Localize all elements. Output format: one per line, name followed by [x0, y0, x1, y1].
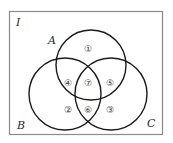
region-2-label: ②: [64, 105, 72, 115]
set-a-label: A: [47, 34, 56, 47]
region-6-label: ⑥: [84, 105, 92, 115]
venn-diagram: I A B C ① ② ③ ④ ⑤ ⑥ ⑦: [0, 0, 173, 143]
region-7-label: ⑦: [84, 78, 92, 88]
region-3-label: ③: [106, 105, 114, 115]
region-5-label: ⑤: [106, 78, 114, 88]
set-b-label: B: [16, 119, 25, 132]
region-4-label: ④: [64, 78, 72, 88]
universe-label: I: [15, 16, 21, 29]
set-c-label: C: [147, 117, 156, 130]
region-1-label: ①: [84, 44, 92, 54]
